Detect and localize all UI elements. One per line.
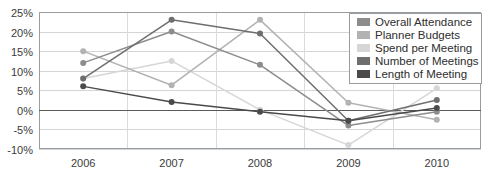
legend-label-length-of-meeting: Length of Meeting [375, 68, 467, 80]
line-chart: 25%20%15%10%5%0%-5%-10%20062007200820092… [0, 0, 488, 175]
data-point-length-of-meeting-2006 [80, 83, 86, 89]
legend-label-planner-budgets: Planner Budgets [375, 29, 460, 41]
data-point-planner-budgets-2007 [169, 82, 175, 88]
legend-swatch-spend-per-meeting [357, 44, 370, 52]
data-point-spend-per-meeting-2009 [345, 142, 351, 148]
data-point-length-of-meeting-2010 [434, 105, 440, 111]
y-axis-tick-label: 10% [11, 66, 33, 78]
x-axis-tick-label: 2010 [425, 157, 449, 169]
data-point-number-of-meetings-2010 [434, 97, 440, 103]
y-axis-tick-label: 15% [11, 46, 33, 58]
legend-label-spend-per-meeting: Spend per Meeting [375, 42, 472, 54]
data-point-number-of-meetings-2008 [257, 31, 263, 37]
data-point-planner-budgets-2008 [257, 17, 263, 23]
legend-swatch-planner-budgets [357, 31, 370, 39]
data-point-length-of-meeting-2008 [257, 109, 263, 115]
legend-swatch-overall-attendance [357, 18, 370, 26]
data-point-overall-attendance-2007 [169, 29, 175, 35]
data-point-overall-attendance-2008 [257, 62, 263, 68]
series-line-length-of-meeting [83, 86, 437, 120]
legend-label-overall-attendance: Overall Attendance [375, 16, 472, 28]
y-axis-tick-label: 0% [17, 105, 33, 117]
y-axis-tick-label: 5% [17, 85, 33, 97]
data-point-overall-attendance-2006 [80, 60, 86, 66]
y-axis-tick-label: -10% [7, 144, 33, 156]
legend-swatch-number-of-meetings [357, 57, 370, 65]
data-point-number-of-meetings-2007 [169, 17, 175, 23]
data-point-planner-budgets-2009 [345, 100, 351, 106]
data-point-length-of-meeting-2007 [169, 99, 175, 105]
legend-swatch-length-of-meeting [357, 70, 370, 78]
data-point-length-of-meeting-2009 [345, 118, 351, 124]
y-axis-tick-label: 20% [11, 27, 33, 39]
y-axis-tick-label: -5% [13, 124, 33, 136]
data-point-planner-budgets-2010 [434, 117, 440, 123]
data-point-spend-per-meeting-2010 [434, 85, 440, 91]
x-axis-tick-label: 2006 [71, 157, 95, 169]
data-point-number-of-meetings-2006 [80, 76, 86, 82]
x-axis-tick-label: 2009 [336, 157, 360, 169]
chart-canvas: 25%20%15%10%5%0%-5%-10%20062007200820092… [0, 0, 488, 175]
data-point-planner-budgets-2006 [80, 48, 86, 54]
data-point-spend-per-meeting-2007 [169, 58, 175, 64]
x-axis-tick-label: 2007 [159, 157, 183, 169]
legend-label-number-of-meetings: Number of Meetings [375, 55, 479, 67]
y-axis-tick-label: 25% [11, 7, 33, 19]
x-axis-tick-label: 2008 [248, 157, 272, 169]
